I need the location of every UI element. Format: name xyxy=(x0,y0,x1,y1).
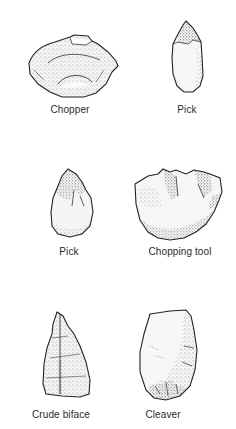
cleaver-label: Cleaver xyxy=(145,409,180,420)
cleaver-drawing: Cleaver xyxy=(0,0,236,429)
cleaver-icon xyxy=(0,0,236,429)
